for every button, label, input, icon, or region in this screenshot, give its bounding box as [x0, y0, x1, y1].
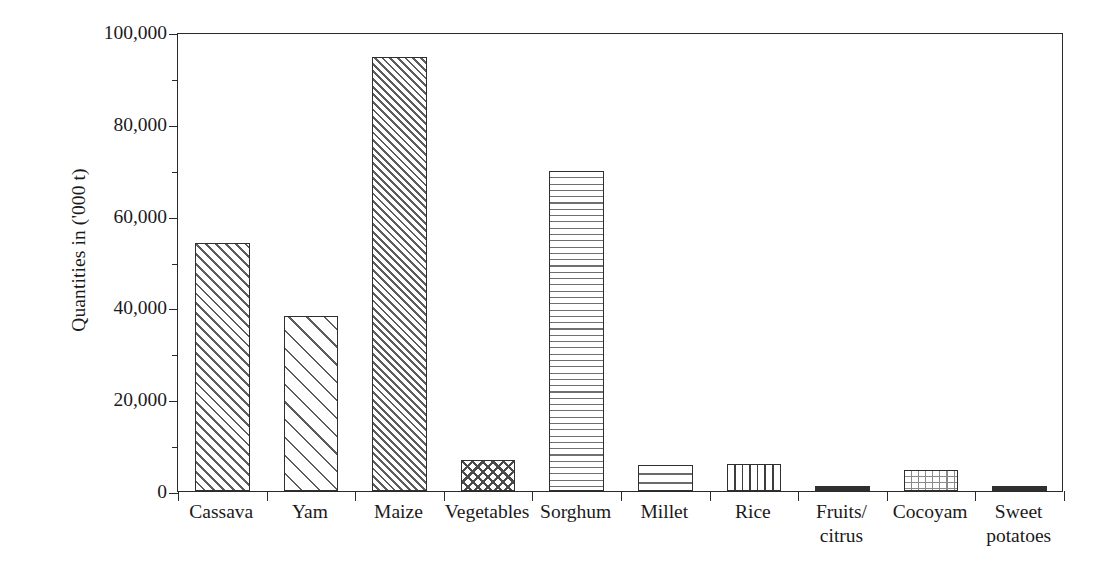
x-axis-tick-label: Sorghum [531, 500, 620, 524]
bar [904, 470, 958, 491]
x-axis-tick-label: Yam [266, 500, 355, 524]
y-axis-tick-label: 80,000 [90, 115, 167, 135]
bar [372, 57, 426, 491]
y-axis-minor-tick [172, 447, 178, 448]
y-axis-major-tick [169, 309, 178, 310]
bar-chart: Quantities in ('000 t) 020,00040,00060,0… [0, 0, 1119, 568]
x-axis-tick-label: Maize [354, 500, 443, 524]
y-axis-major-tick [169, 493, 178, 494]
y-axis-major-tick [169, 401, 178, 402]
bar [549, 171, 603, 491]
bar [815, 486, 869, 491]
y-axis-minor-tick [172, 80, 178, 81]
plot-area [177, 33, 1063, 492]
bars-layer [178, 34, 1062, 491]
x-axis-tick [1064, 491, 1065, 501]
y-axis-tick-label: 0 [90, 482, 167, 502]
y-axis-major-tick [169, 34, 178, 35]
x-axis-tick-label: Cocoyam [886, 500, 975, 524]
y-axis-major-tick [169, 126, 178, 127]
y-axis-tick-label: 100,000 [90, 23, 167, 43]
x-axis-tick-labels: CassavaYamMaizeVegetablesSorghumMilletRi… [177, 500, 1063, 566]
y-axis-tick-label: 40,000 [90, 299, 167, 319]
x-axis-tick-label: Rice [709, 500, 798, 524]
bar [638, 465, 692, 491]
bar [195, 243, 249, 491]
y-axis-minor-tick [172, 355, 178, 356]
y-axis-tick-labels: 020,00040,00060,00080,000100,000 [90, 0, 167, 568]
bar [284, 316, 338, 491]
bar [727, 464, 781, 491]
x-axis-tick-label: Fruits/ citrus [797, 500, 886, 548]
y-axis-tick-label: 20,000 [90, 390, 167, 410]
bar [992, 486, 1046, 492]
x-axis-tick-label: Sweet potatoes [974, 500, 1063, 548]
y-axis-minor-tick [172, 172, 178, 173]
bar [461, 460, 515, 491]
y-axis-minor-tick [172, 264, 178, 265]
x-axis-tick-label: Cassava [177, 500, 266, 524]
y-axis-tick-label: 60,000 [90, 207, 167, 227]
x-axis-tick-label: Millet [620, 500, 709, 524]
y-axis-major-tick [169, 218, 178, 219]
x-axis-tick-label: Vegetables [443, 500, 532, 524]
